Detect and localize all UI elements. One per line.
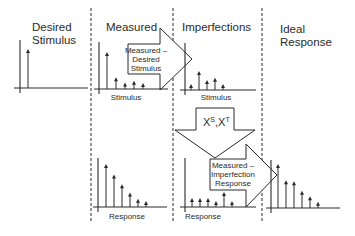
ideal_response-stem-arrowhead (300, 191, 304, 195)
measured_stimulus-stem-arrowhead (141, 83, 145, 87)
imperfection-response-label: Response (185, 212, 222, 221)
measured_response-stem-arrowhead (136, 199, 140, 203)
subtract-stimulus-label-line2: Desired (132, 55, 160, 64)
measured-stimulus-label: Stimulus (111, 93, 142, 102)
imperfection_response-stem-arrowhead (190, 198, 194, 202)
imperfection-stimulus-label: Stimulus (201, 93, 232, 102)
signal-diagram: Desired Stimulus Measured Imperfections … (0, 0, 355, 236)
measured_stimulus-stem-arrowhead (132, 81, 136, 85)
column-title-ideal-response-line2: Response (280, 36, 332, 48)
measured_stimulus-stem-arrowhead (114, 77, 118, 81)
column-title-measured: Measured (106, 21, 157, 33)
imperfection_stimulus-stem-arrowhead (221, 84, 225, 88)
imperfection_stimulus-stem-arrowhead (189, 84, 193, 88)
measured_response-stem-arrowhead (104, 164, 108, 168)
measured-response-label: Response (109, 212, 146, 221)
ideal_response-stem-arrowhead (276, 164, 280, 168)
ideal_response-stem-arrowhead (284, 180, 288, 184)
measured_response-stem-arrowhead (128, 193, 132, 197)
imperfection_response-stem-arrowhead (222, 192, 226, 196)
subtract-stimulus-label-line3: Stimulus (131, 64, 162, 73)
column-title-imperfections: Imperfections (182, 21, 251, 33)
ideal_response-stem-arrowhead (292, 181, 296, 185)
column-title-desired-stimulus: Desired (32, 21, 72, 33)
imperfection_response-stem-arrowhead (230, 201, 234, 205)
imperfection_response-stem-arrowhead (214, 201, 218, 205)
column-title-ideal-response: Ideal (280, 23, 305, 35)
imperfection_response-stem-arrowhead (206, 198, 210, 202)
measured_response-stem-arrowhead (144, 201, 148, 205)
imperfection_response-stem-arrowhead (198, 198, 202, 202)
imperfection_stimulus-stem-arrowhead (205, 80, 209, 84)
measured_response-stem-arrowhead (112, 175, 116, 179)
desired_stimulus-stem-arrowhead (26, 49, 30, 53)
imperfection_stimulus-stem-arrowhead (197, 71, 201, 75)
subtract-response-label-line3: Response (215, 179, 252, 188)
subtract-response-label-line1: Measured – (212, 161, 255, 170)
ideal_response-stem-arrowhead (308, 196, 312, 200)
subtract-response-label-line2: Imperfection (211, 170, 255, 179)
subtract-stimulus-label-line1: Measured – (125, 46, 168, 55)
measured_stimulus-stem-arrowhead (105, 52, 109, 56)
measured_response-stem-arrowhead (120, 184, 124, 188)
ideal_response-stem-arrowhead (316, 202, 320, 206)
measured_stimulus-stem-arrowhead (123, 83, 127, 87)
imperfection_stimulus-stem-arrowhead (213, 78, 217, 82)
column-title-desired-stimulus-line2: Stimulus (32, 34, 76, 46)
